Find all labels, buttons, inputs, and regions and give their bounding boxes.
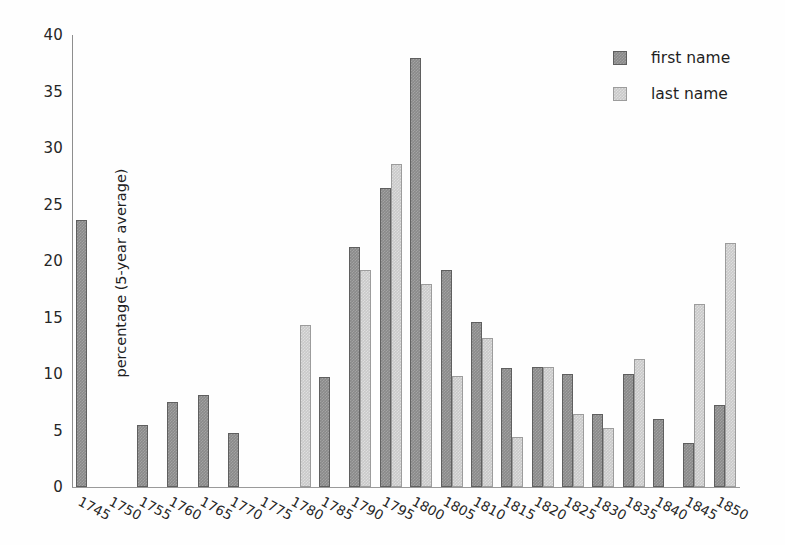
bar-first-name [501,368,512,487]
bar-last-name [300,325,311,487]
y-tick-label: 35 [44,83,64,101]
bar-group [193,35,223,487]
bar-first-name [380,188,391,487]
bar-first-name [683,443,694,487]
y-tick-label: 5 [53,422,63,440]
bar-group [376,35,406,487]
legend-item: first name [613,40,730,76]
bar-last-name [421,284,432,487]
bar-last-name [512,437,523,487]
bar-group [406,35,436,487]
bar-group [558,35,588,487]
bar-group [72,35,102,487]
bar-last-name [725,243,736,487]
bar-first-name [592,414,603,487]
y-tick-label: 20 [44,252,64,270]
legend-swatch-first-name [613,51,627,65]
bar-last-name [452,376,463,487]
bar-group [254,35,284,487]
bar-first-name [228,433,239,487]
bar-first-name [532,367,543,487]
bar-first-name [410,58,421,487]
bar-group [285,35,315,487]
bar-last-name [543,367,554,487]
y-tick-label: 40 [44,26,64,44]
bar-last-name [603,428,614,487]
y-tick-label: 15 [44,309,64,327]
bar-last-name [391,164,402,487]
bar-group [436,35,466,487]
y-tick-label: 10 [44,365,64,383]
x-tick-label: 1850 [713,493,751,523]
bar-first-name [349,247,360,487]
bar-group [345,35,375,487]
bar-group [527,35,557,487]
bar-group [467,35,497,487]
y-tick-label: 25 [44,196,64,214]
bar-group [102,35,132,487]
legend-label: first name [651,49,730,67]
bar-last-name [573,414,584,487]
legend-label: last name [651,85,728,103]
bar-first-name [167,402,178,487]
bar-first-name [198,395,209,487]
bar-chart: percentage (5-year average) 051015202530… [0,0,785,545]
bar-first-name [714,405,725,487]
bar-group [497,35,527,487]
bar-first-name [76,220,87,487]
bar-first-name [623,374,634,487]
bar-last-name [634,359,645,487]
legend-swatch-last-name [613,87,627,101]
bar-group [224,35,254,487]
bar-first-name [319,377,330,487]
legend-item: last name [613,76,730,112]
bar-first-name [137,425,148,487]
x-axis-line [72,487,740,488]
legend: first namelast name [613,40,730,112]
bar-group [163,35,193,487]
bar-last-name [360,270,371,487]
y-tick-label: 30 [44,139,64,157]
bar-first-name [653,419,664,487]
bar-last-name [482,338,493,487]
bar-group [133,35,163,487]
bar-group [315,35,345,487]
bar-last-name [694,304,705,487]
bar-first-name [471,322,482,487]
bar-first-name [562,374,573,487]
y-tick-label: 0 [53,478,63,496]
bar-first-name [441,270,452,487]
